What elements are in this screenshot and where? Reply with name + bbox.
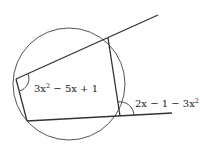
cyclic-quadrilateral-diagram: 3x2 − 5x + 1 2x − 1 − 3x2 [0, 0, 200, 149]
interior-angle-label: 3x2 − 5x + 1 [34, 82, 98, 94]
exterior-angle-arc [118, 102, 134, 115]
line-dc-extended [27, 113, 172, 121]
exterior-angle-label: 2x − 1 − 3x2 [135, 97, 199, 109]
side-ad [16, 79, 27, 121]
side-bc [108, 38, 120, 116]
line-ab-extended [16, 15, 158, 79]
